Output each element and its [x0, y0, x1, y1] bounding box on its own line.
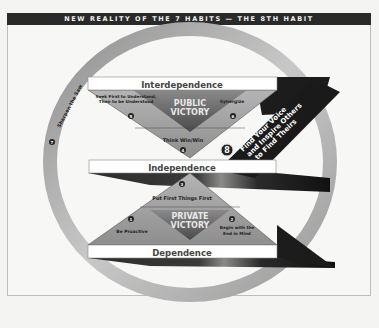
svg-text:3: 3 — [181, 182, 184, 187]
dependence-label: Dependence — [152, 248, 212, 258]
svg-text:Think Win/Win: Think Win/Win — [163, 137, 204, 143]
interdependence-label: Interdependence — [141, 80, 223, 90]
svg-text:6: 6 — [232, 114, 235, 119]
svg-text:Then to be Understood: Then to be Understood — [99, 99, 153, 104]
public-victory-line1: PUBLIC — [174, 99, 207, 108]
svg-text:Be Proactive: Be Proactive — [116, 229, 147, 234]
svg-text:1: 1 — [130, 217, 133, 222]
svg-text:7: 7 — [51, 140, 54, 145]
svg-text:Put First Things First: Put First Things First — [152, 195, 212, 202]
svg-text:8: 8 — [224, 146, 230, 155]
habits-diagram: Interdependence Independence Dependence … — [0, 0, 379, 328]
svg-text:Begin with the: Begin with the — [220, 225, 255, 230]
svg-text:5: 5 — [130, 114, 133, 119]
private-victory-line1: PRIVATE — [171, 212, 208, 221]
svg-text:2: 2 — [231, 217, 234, 222]
svg-text:4: 4 — [182, 148, 185, 153]
svg-text:End in Mind: End in Mind — [223, 231, 251, 236]
svg-text:Synergize: Synergize — [220, 99, 244, 104]
private-victory-line2: VICTORY — [171, 221, 210, 230]
public-victory-line2: VICTORY — [171, 108, 210, 117]
independence-label: Independence — [148, 163, 216, 173]
